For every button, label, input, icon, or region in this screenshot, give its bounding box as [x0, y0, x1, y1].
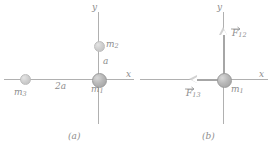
mass-m3-panel-a [20, 74, 31, 85]
force-label-f13-vector-arrow: F [186, 89, 192, 98]
mass-label-m1-panel-a-sub: 1 [100, 87, 104, 95]
vector-f13-arrowhead-inner [192, 77, 197, 83]
mass-label-m1-panel-a-text: m [91, 84, 100, 94]
force-label-f12-vector-arrow: F [232, 29, 238, 38]
mass-label-m3-panel-a-text: m [14, 87, 23, 97]
vector-f12-arrowhead-inner [221, 30, 227, 35]
mass-label-m1-panel-b: m1 [231, 85, 244, 95]
mass-label-m2-panel-a-sub: 2 [115, 42, 119, 50]
distance-label-2a: 2a [55, 82, 66, 91]
force-label-f12-sub: 12 [238, 31, 246, 39]
mass-label-m2-panel-a-text: m [106, 39, 115, 49]
mass-label-m1-panel-b-sub: 1 [240, 87, 244, 95]
distance-label-a: a [103, 57, 108, 66]
caption-panel-a: (a) [68, 131, 80, 141]
force-label-f13-sub: 13 [192, 91, 200, 99]
caption-panel-b: (b) [202, 131, 215, 141]
y-axis-label-panel-b: y [217, 3, 222, 12]
panel-b: y x F12 F13 m1 (b) [138, 0, 275, 148]
mass-label-m3-panel-a: m3 [14, 88, 27, 98]
mass-label-m1-panel-a: m1 [91, 85, 104, 95]
y-axis-label-panel-a: y [92, 3, 97, 12]
mass-m2-panel-a [94, 41, 105, 52]
vector-overbar-icon [185, 86, 195, 91]
x-axis-label-panel-b: x [259, 70, 264, 79]
mass-label-m1-panel-b-text: m [231, 84, 240, 94]
x-axis-label-panel-a: x [126, 70, 131, 79]
force-label-f13: F13 [186, 89, 201, 99]
mass-label-m3-panel-a-sub: 3 [23, 90, 27, 98]
mass-m1-panel-b [217, 73, 232, 88]
panel-a: y x m1 m2 m3 a 2a (a) [0, 0, 137, 148]
physics-figure: y x m1 m2 m3 a 2a (a) y x F12 [0, 0, 275, 148]
y-axis-panel-a [98, 12, 99, 124]
mass-label-m2-panel-a: m2 [106, 40, 119, 50]
force-label-f12: F12 [232, 29, 247, 39]
vector-overbar-icon [231, 26, 241, 31]
